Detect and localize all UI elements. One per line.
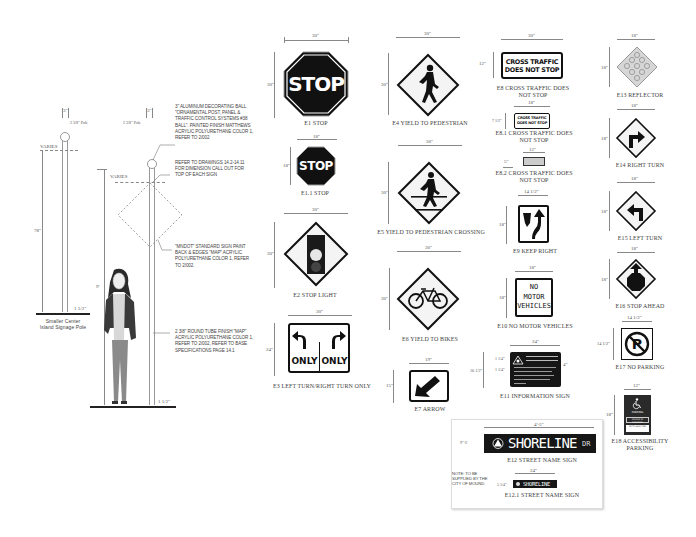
width-dim: 18": [527, 265, 538, 270]
width-dim-line: [409, 363, 449, 364]
caption-line: NOT STOP: [494, 137, 574, 144]
caption-line: E18 ACCESSIBILITY: [600, 438, 680, 445]
width-dim-line: [284, 213, 348, 214]
width-dim-line: [617, 252, 655, 253]
sign-caption: E2 STOP LIGHT: [270, 292, 360, 299]
sign-caption: E5 YIELD TO PEDESTRIAN CROSSING: [372, 229, 490, 236]
information-sign-panel: [510, 352, 561, 387]
width-dim-line: [617, 109, 655, 110]
height-dim-line: [388, 162, 389, 224]
sign-caption: E12.1 STREET NAME SIGN: [492, 492, 592, 499]
height-dim: 30": [267, 251, 274, 256]
sign-caption: E4 YIELD TO PEDESTRIAN: [380, 120, 480, 127]
height-dim-line: [393, 370, 394, 403]
height-dim-line: [388, 53, 389, 115]
text-line: [514, 371, 552, 372]
width-dim: 18": [629, 103, 640, 108]
sign-caption: E8.1 CROSS TRAFFIC DOES NOT STOP: [494, 130, 574, 144]
width-dim-line: [510, 345, 560, 346]
text-line: [526, 360, 558, 361]
pedestrian-diamond-icon: [397, 54, 459, 116]
logo-triangle-icon: [513, 356, 523, 364]
width-dim: 12": [632, 383, 641, 388]
sign-caption: E6 YIELD TO BIKES: [385, 336, 475, 343]
height-dim: 7 1/2": [492, 118, 502, 123]
height-dim: 30": [381, 190, 388, 195]
parking-text: PARKING: [624, 411, 651, 414]
width-dim: 14 1/2": [626, 315, 643, 320]
keep-right-arrow-icon: [522, 209, 546, 241]
caption-line: E8.2 CROSS TRAFFIC DOES: [494, 170, 574, 177]
stop-ahead-diamond-icon: [616, 259, 656, 299]
caption-line: NOT STOP: [494, 177, 574, 184]
sign-text-line: MOTOR: [517, 293, 551, 303]
sign-caption: E18 ACCESSIBILITY PARKING: [600, 438, 680, 452]
note-decorative-ball: 3" ALUMINUM DECORATING BALL "ORNAMENTAL …: [175, 104, 257, 141]
height-dim-line: [274, 52, 275, 118]
sign-caption: E16 STOP AHEAD: [605, 303, 675, 310]
width-dim: 18": [629, 33, 640, 38]
height-dim: 15": [386, 383, 393, 388]
logo-triangle-icon: [492, 438, 504, 449]
width-dim-line: [397, 251, 461, 252]
diagonal-arrow-down-left-icon: [413, 374, 445, 398]
width-dim-line: [523, 152, 545, 153]
small-pole-shaft: [62, 141, 68, 312]
sign-text-line: DOES NOT STOP: [503, 66, 561, 74]
height-dim-line: [42, 150, 43, 312]
sign-caption: E11 INFORMATION SIGN: [490, 393, 580, 400]
caption-line: NOT STOP: [494, 92, 572, 99]
dim-b: 1 1/4": [495, 367, 505, 372]
large-pole-top-dim: 3": [147, 108, 152, 113]
sign-caption: E7 ARROW: [400, 406, 460, 413]
height-dim: 18": [601, 136, 608, 141]
width-dim-line: [288, 315, 352, 316]
height-dim: 18": [601, 65, 608, 70]
cross-traffic-sign-panel: CROSS TRAFFIC DOES NOT STOP: [501, 52, 563, 79]
reflector-diamond-icon: [617, 47, 657, 87]
width-dim-line: [501, 39, 563, 40]
width-dim-line: [284, 40, 348, 41]
no-parking-icon: P: [624, 331, 650, 357]
height-dim-line: [389, 268, 390, 330]
sign-caption: E12 STREET NAME SIGN: [492, 457, 592, 464]
width-dim: 30": [423, 245, 434, 250]
height-dim-line: [483, 352, 484, 388]
large-pole-base-dim: 1 1/2": [158, 399, 170, 404]
height-dim: 18": [601, 209, 608, 214]
height-dim: 16 1/2": [470, 368, 482, 373]
height-dim: 12": [479, 61, 486, 66]
height-dim-line: [290, 147, 291, 185]
caption-line: E8 CROSS TRAFFIC DOES: [494, 85, 572, 92]
height-dim: 18": [499, 295, 506, 300]
small-pole-top-dim: 3": [63, 108, 68, 113]
ground-line: [90, 406, 176, 408]
height-dim: 18": [601, 277, 608, 282]
height-dim-line: [609, 191, 610, 231]
small-pole-height: 78": [34, 228, 41, 233]
street-name-sign-box: 4'-5" 9" 6' SHORELINE DR E12 STREET NAME…: [451, 419, 603, 509]
width-dim: 12": [528, 147, 537, 152]
width-dim: 30": [310, 207, 321, 212]
text-line: [514, 383, 526, 384]
small-pole-caption: Smaller Center Island Signage Pole: [30, 318, 96, 330]
width-dim-line: [484, 427, 594, 428]
note-refer-drawings: REFER TO DRAWINGS 14.2-14.11 FOR DIMENSI…: [175, 160, 245, 179]
width-dim: 24": [530, 339, 541, 344]
dim-tick: [284, 37, 285, 43]
note-round-tube: 2 3/8" ROUND TUBE FINISH "MAP" ACRYLIC P…: [175, 329, 255, 354]
text-line: [526, 356, 558, 357]
stop-text: STOP: [297, 155, 335, 177]
cross-traffic-mini-sign: [523, 157, 545, 166]
sign-caption: E8.2 CROSS TRAFFIC DOES NOT STOP: [494, 170, 574, 184]
height-dim-line: [506, 206, 507, 244]
width-dim: 30": [314, 309, 325, 314]
width-dim: 14 1/2": [523, 189, 540, 194]
sign-caption: E13 REFLECTOR: [605, 92, 675, 99]
note-supplied-by-city: NOTE: TO BE SUPPLIED BY THE CITY OF MOUN…: [452, 471, 488, 487]
height-dim-line: [613, 328, 614, 360]
sign-caption: E15 LEFT TURN: [605, 235, 675, 242]
street-name-sign-panel: SHORELINE DR: [484, 434, 596, 453]
sign-caption: E8 CROSS TRAFFIC DOES NOT STOP: [494, 85, 572, 99]
height-dim: 30": [267, 82, 274, 87]
